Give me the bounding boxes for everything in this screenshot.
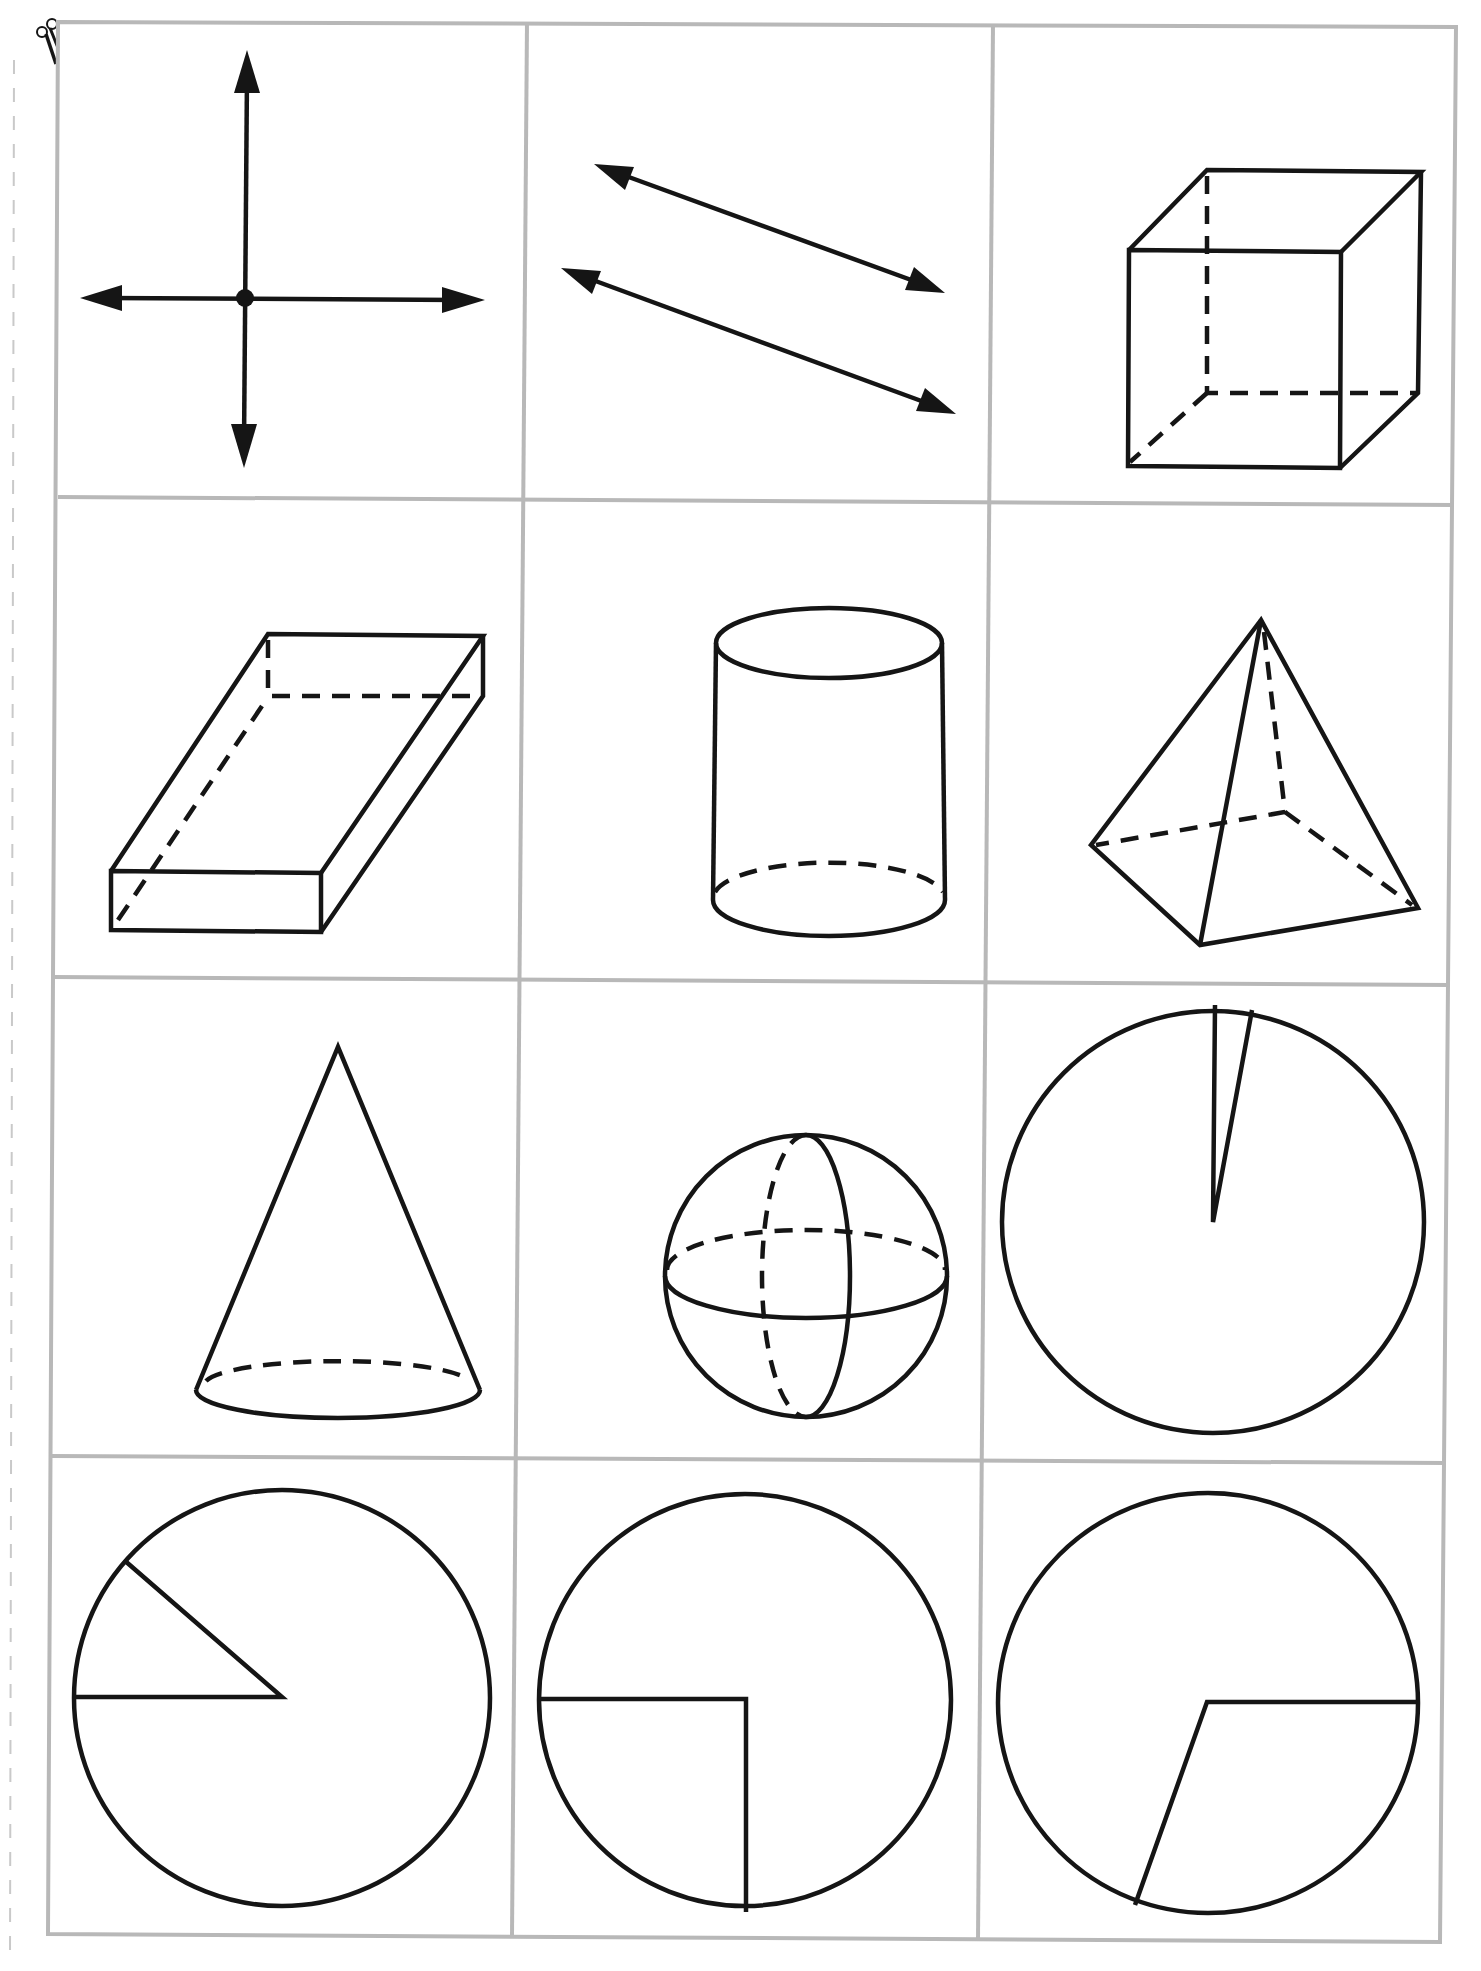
- card-square-pyramid[interactable]: [1091, 620, 1418, 945]
- card-grid: [48, 22, 1456, 1942]
- card-cylinder[interactable]: [713, 608, 945, 936]
- card-perpendicular-lines[interactable]: [80, 50, 485, 468]
- card-sphere[interactable]: [665, 1135, 947, 1417]
- scissors-icon: [37, 19, 58, 64]
- card-circle-small-angle[interactable]: [1002, 1005, 1424, 1433]
- card-circle-acute-angle[interactable]: [74, 1490, 490, 1906]
- shape-card-sheet: [0, 0, 1481, 1971]
- card-rectangular-prism[interactable]: [111, 634, 483, 932]
- card-cone[interactable]: [196, 1047, 480, 1418]
- card-cube[interactable]: [1128, 170, 1421, 468]
- card-circle-obtuse-angle[interactable]: [998, 1493, 1418, 1913]
- intersection-point: [236, 289, 254, 307]
- card-circle-right-angle[interactable]: [539, 1494, 951, 1912]
- cut-guide-line: [10, 60, 14, 1960]
- card-parallel-lines[interactable]: [561, 164, 956, 414]
